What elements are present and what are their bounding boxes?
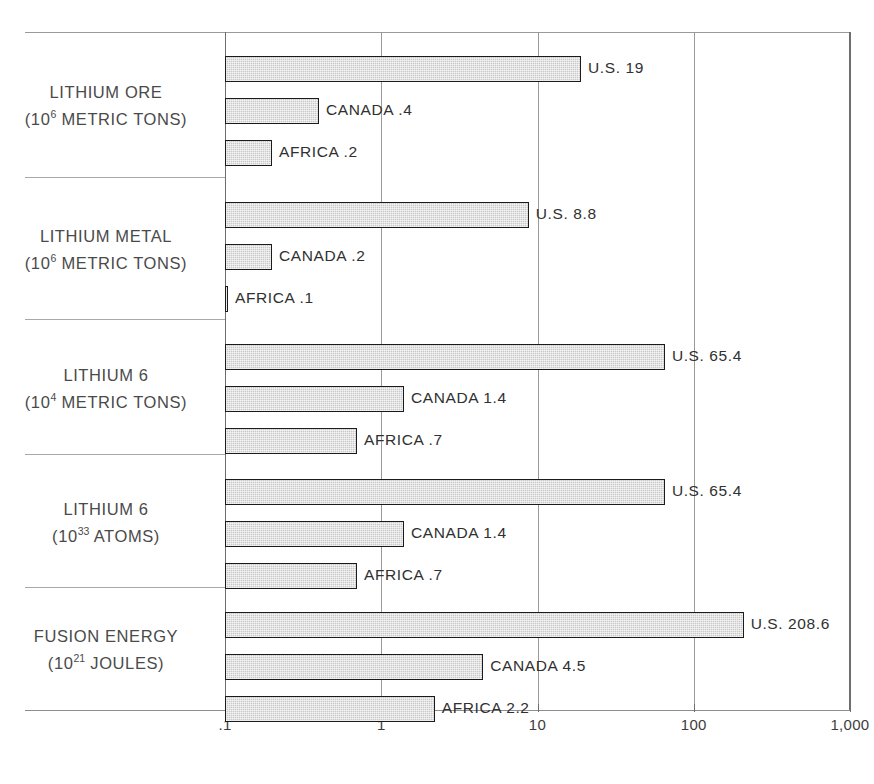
- chart-container: .11101001,000 LITHIUM ORE(106 METRIC TON…: [0, 0, 874, 784]
- bar-value-label: AFRICA 2.2: [442, 699, 530, 717]
- bar: [225, 696, 435, 722]
- group-label-name: FUSION ENERGY: [34, 627, 178, 645]
- bar: [225, 479, 665, 505]
- group-label-name: LITHIUM ORE: [50, 83, 163, 101]
- bar-row: AFRICA .7: [225, 563, 850, 589]
- group-label-unit: (106 METRIC TONS): [0, 103, 212, 130]
- bar: [225, 140, 272, 166]
- bar-group: LITHIUM METAL(106 METRIC TONS)U.S. 8.8CA…: [0, 178, 874, 320]
- bar-value-label: U.S. 65.4: [672, 347, 742, 365]
- group-label-exponent: 21: [73, 652, 85, 664]
- group-label-name: LITHIUM 6: [63, 500, 148, 518]
- group-label-name: LITHIUM 6: [63, 366, 148, 384]
- bar: [225, 386, 404, 412]
- bar: [225, 56, 581, 82]
- bar-value-label: AFRICA .2: [279, 143, 358, 161]
- group-label-exponent: 6: [50, 108, 56, 120]
- bar-row: CANADA .4: [225, 98, 850, 124]
- bar-row: AFRICA .7: [225, 428, 850, 454]
- group-label-exponent: 4: [50, 391, 56, 403]
- bar-row: CANADA 4.5: [225, 654, 850, 680]
- bar-value-label: CANADA 1.4: [411, 524, 507, 542]
- group-label-exponent: 6: [50, 252, 56, 264]
- group-label: LITHIUM 6(1033 ATOMS): [0, 498, 212, 547]
- group-label: LITHIUM 6(104 METRIC TONS): [0, 364, 212, 413]
- bar-row: AFRICA .2: [225, 140, 850, 166]
- bar-row: U.S. 208.6: [225, 612, 850, 638]
- bar: [225, 344, 665, 370]
- bar-value-label: CANADA .4: [326, 101, 412, 119]
- bar-group: LITHIUM 6(104 METRIC TONS)U.S. 65.4CANAD…: [0, 320, 874, 455]
- bar-row: CANADA 1.4: [225, 386, 850, 412]
- bar-row: AFRICA 2.2: [225, 696, 850, 722]
- bar-group: LITHIUM 6(1033 ATOMS)U.S. 65.4CANADA 1.4…: [0, 455, 874, 588]
- bar-value-label: AFRICA .1: [235, 289, 314, 307]
- bar-value-label: AFRICA .7: [364, 566, 443, 584]
- group-label: LITHIUM ORE(106 METRIC TONS): [0, 81, 212, 130]
- bar-group: FUSION ENERGY(1021 JOULES)U.S. 208.6CANA…: [0, 588, 874, 710]
- bar: [225, 244, 272, 270]
- bar-value-label: CANADA 4.5: [490, 657, 586, 675]
- bar-value-label: U.S. 65.4: [672, 482, 742, 500]
- bar-value-label: AFRICA .7: [364, 431, 443, 449]
- bar: [225, 563, 357, 589]
- bar: [225, 98, 319, 124]
- bar-row: U.S. 19: [225, 56, 850, 82]
- group-label: FUSION ENERGY(1021 JOULES): [0, 625, 212, 674]
- bar-row: CANADA .2: [225, 244, 850, 270]
- group-label-unit: (106 METRIC TONS): [0, 247, 212, 274]
- group-label-exponent: 33: [78, 525, 90, 537]
- bar-value-label: CANADA 1.4: [411, 389, 507, 407]
- bar-row: AFRICA .1: [225, 286, 850, 312]
- bar: [225, 202, 529, 228]
- bar: [225, 428, 357, 454]
- group-label-unit: (1021 JOULES): [0, 647, 212, 674]
- group-label-unit: (104 METRIC TONS): [0, 386, 212, 413]
- bar-row: U.S. 8.8: [225, 202, 850, 228]
- bar: [225, 612, 744, 638]
- group-label: LITHIUM METAL(106 METRIC TONS): [0, 225, 212, 274]
- bar-value-label: CANADA .2: [279, 247, 365, 265]
- bar-group: LITHIUM ORE(106 METRIC TONS)U.S. 19CANAD…: [0, 32, 874, 178]
- bar: [225, 654, 483, 680]
- bar: [225, 521, 404, 547]
- bar-row: CANADA 1.4: [225, 521, 850, 547]
- bar-value-label: U.S. 208.6: [751, 615, 830, 633]
- bar-row: U.S. 65.4: [225, 479, 850, 505]
- bar-value-label: U.S. 19: [588, 59, 644, 77]
- bar-row: U.S. 65.4: [225, 344, 850, 370]
- group-label-name: LITHIUM METAL: [40, 227, 172, 245]
- bar-value-label: U.S. 8.8: [536, 205, 597, 223]
- bar: [225, 286, 228, 312]
- group-label-unit: (1033 ATOMS): [0, 520, 212, 547]
